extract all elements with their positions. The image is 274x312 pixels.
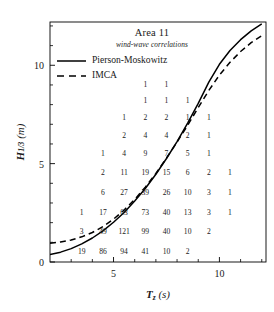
count-cell: 6 — [186, 170, 190, 178]
count-cell: 94 — [120, 248, 128, 256]
x-tick-label: 10 — [214, 268, 224, 279]
count-cell: 2 — [122, 132, 126, 140]
count-cell: 9 — [143, 150, 147, 158]
count-cell: 11 — [120, 170, 127, 178]
count-cell: 40 — [163, 209, 171, 217]
count-cell: 10 — [184, 189, 192, 197]
count-cell: 26 — [163, 189, 171, 197]
y-tick-label: 10 — [24, 60, 44, 71]
x-tick-label: 5 — [111, 268, 116, 279]
count-cell: 1 — [207, 115, 211, 123]
chart-title: Area 11 — [92, 27, 212, 38]
count-cell: 63 — [120, 209, 128, 217]
y-tick-label: 0 — [24, 257, 44, 268]
count-cell: 86 — [99, 248, 107, 256]
count-cell: 1 — [80, 209, 84, 217]
count-cell: 27 — [120, 189, 128, 197]
count-cell: 15 — [163, 170, 171, 178]
y-axis-label: H1/3 (m) — [14, 124, 26, 161]
chart-figure: Area 11 wind-wave correlations Pierson-M… — [0, 0, 274, 312]
count-cell: 1 — [207, 132, 211, 140]
count-cell: 73 — [141, 209, 149, 217]
count-cell: 1 — [165, 97, 169, 105]
count-cell: 2 — [101, 170, 105, 178]
count-cell: 2 — [207, 170, 211, 178]
count-cell: 1 — [228, 170, 232, 178]
count-cell: 99 — [141, 229, 149, 237]
count-cell: 1 — [186, 97, 190, 105]
chart-subtitle: wind-wave correlations — [92, 40, 212, 49]
count-cell: 6 — [101, 189, 105, 197]
count-cell: 17 — [99, 209, 107, 217]
count-cell: 1 — [143, 97, 147, 105]
count-cell: 1 — [228, 209, 232, 217]
count-cell: 10 — [184, 229, 192, 237]
count-cell: 2 — [207, 229, 211, 237]
legend-label-pierson-moskowitz: Pierson-Moskowitz — [92, 54, 167, 65]
legend-label-imca: IMCA — [92, 69, 117, 80]
count-cell: 3 — [80, 229, 84, 237]
count-cell: 41 — [141, 248, 149, 256]
count-cell: 1 — [101, 150, 105, 158]
count-cell: 7 — [165, 150, 169, 158]
y-tick-label: 5 — [24, 158, 44, 169]
legend-line-samples — [57, 61, 86, 76]
count-cell: 5 — [186, 150, 190, 158]
count-cell: 2 — [165, 115, 169, 123]
count-cell: 2 — [186, 248, 190, 256]
count-cell: 1 — [186, 115, 190, 123]
count-cell: 1 — [165, 81, 169, 89]
count-cell: 3 — [207, 209, 211, 217]
count-cell: 4 — [143, 132, 147, 140]
count-cell: 3 — [207, 189, 211, 197]
count-cell: 1 — [207, 150, 211, 158]
count-cell: 1 — [143, 81, 147, 89]
count-cell: 19 — [78, 248, 86, 256]
count-cell: 4 — [122, 150, 126, 158]
count-cell: 49 — [99, 229, 107, 237]
x-axis-label: Tz (s) — [146, 288, 170, 302]
count-cell: 121 — [118, 229, 129, 237]
count-cell: 19 — [141, 170, 149, 178]
count-cell: 39 — [141, 189, 149, 197]
count-cell: 2 — [143, 115, 147, 123]
count-cell: 10 — [163, 248, 171, 256]
count-cell: 4 — [165, 132, 169, 140]
count-cell: 1 — [122, 115, 126, 123]
count-cell: 40 — [163, 229, 171, 237]
count-cell: 13 — [184, 209, 192, 217]
count-cell: 1 — [228, 189, 232, 197]
count-cell: 2 — [186, 132, 190, 140]
